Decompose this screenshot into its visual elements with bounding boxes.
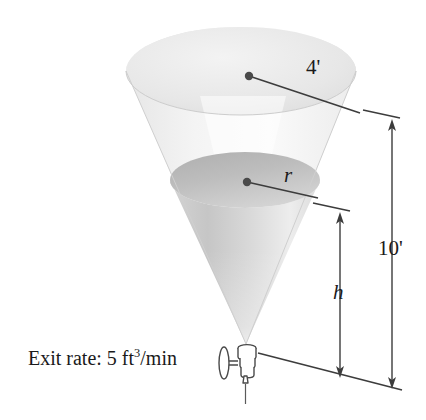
water-height-top-extension <box>313 203 350 211</box>
total-height-bottom-extension <box>258 353 402 390</box>
water-height-dimension <box>313 203 350 378</box>
total-height-label: 10' <box>378 238 403 259</box>
cone-tank-figure: 4' r 10' h Exit rate: 5 ft3/min <box>0 0 426 420</box>
water-height-label: h <box>333 282 344 303</box>
exit-rate-label: Exit rate: 5 ft3/min <box>28 348 177 368</box>
valve-spout <box>243 376 248 383</box>
total-height-top-extension <box>363 110 400 118</box>
top-radius-label: 4' <box>306 57 320 78</box>
exit-rate-suffix: /min <box>140 347 177 369</box>
apex-fade <box>120 250 340 360</box>
handwheel-icon <box>219 347 229 379</box>
water-radius-label: r <box>284 165 292 186</box>
valve-icon <box>219 345 256 404</box>
exit-rate-prefix: Exit rate: 5 ft <box>28 347 134 369</box>
cone-body <box>120 27 356 360</box>
top-center-dot <box>245 72 253 80</box>
water-center-dot <box>243 178 251 186</box>
